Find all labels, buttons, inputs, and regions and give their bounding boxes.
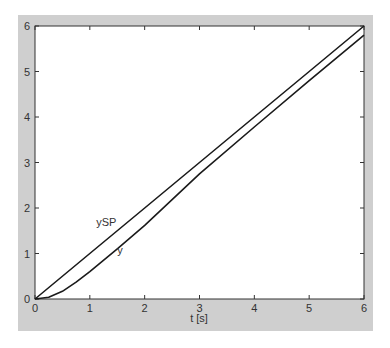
y-tick-labels: 0123456: [24, 20, 30, 305]
series-label: ySP: [96, 216, 116, 228]
x-tick-label: 6: [361, 302, 367, 314]
x-tick-label: 0: [32, 302, 38, 314]
x-tick-label: 5: [306, 302, 312, 314]
y-tick-label: 1: [24, 248, 30, 260]
y-tick-label: 6: [24, 20, 30, 32]
y-tick-label: 0: [24, 293, 30, 305]
y-tick-label: 2: [24, 202, 30, 214]
x-tick-label: 4: [251, 302, 257, 314]
y-tick-label: 4: [24, 111, 30, 123]
x-tick-label: 2: [142, 302, 148, 314]
series-label: y: [117, 244, 123, 256]
x-axis-label: t [s]: [190, 312, 208, 324]
line-chart: 0123456 0123456 ySPy t [s]: [0, 0, 390, 348]
x-tick-label: 1: [87, 302, 93, 314]
y-tick-label: 3: [24, 157, 30, 169]
y-tick-label: 5: [24, 66, 30, 78]
